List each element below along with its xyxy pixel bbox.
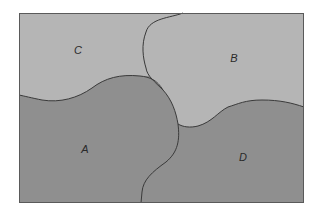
map-drawing <box>0 0 322 218</box>
region-label-a: A <box>81 144 88 155</box>
region-map-diagram: C B A D <box>0 0 322 218</box>
region-label-d: D <box>239 152 247 163</box>
region-label-b: B <box>230 53 237 64</box>
region-label-c: C <box>74 45 82 56</box>
